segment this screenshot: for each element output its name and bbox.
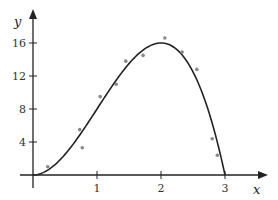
data-point (195, 68, 199, 72)
data-point (124, 59, 128, 63)
data-point (210, 137, 214, 141)
x-tick-label: 3 (222, 182, 229, 195)
x-axis-label: x (253, 182, 261, 197)
x-tick-label: 1 (94, 182, 101, 195)
data-point (141, 54, 145, 58)
axes (20, 9, 268, 188)
y-axis-arrow-icon (29, 9, 37, 19)
fitted-curve (33, 43, 225, 175)
data-point (180, 50, 184, 54)
y-tick-label: 12 (12, 70, 26, 83)
y-tick-label: 4 (19, 136, 26, 149)
y-axis-label: y (13, 14, 22, 29)
x-axis-arrow-icon (258, 171, 268, 179)
y-tick-label: 8 (19, 103, 26, 116)
chart: 123481216 x y (0, 0, 278, 200)
data-point (114, 82, 118, 86)
data-point (46, 165, 50, 169)
data-points (46, 36, 219, 168)
data-point (78, 128, 82, 132)
data-point (98, 95, 102, 99)
x-tick-label: 2 (158, 182, 165, 195)
data-point (80, 146, 84, 150)
y-tick-label: 16 (12, 37, 26, 50)
data-point (163, 36, 167, 40)
data-point (216, 153, 220, 157)
